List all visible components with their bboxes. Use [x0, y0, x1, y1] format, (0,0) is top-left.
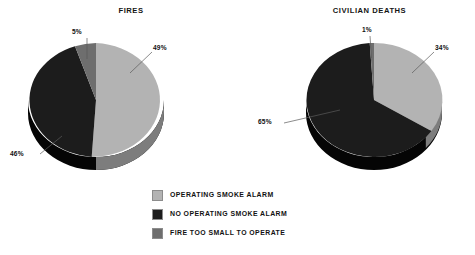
legend-label-no-operating: NO OPERATING SMOKE ALARM	[170, 211, 287, 218]
pie-graphic-fires: 49% 46% 5%	[0, 0, 240, 190]
legend-swatch-no-operating-icon	[152, 209, 163, 220]
pie-svg-civilian-deaths	[240, 0, 475, 190]
legend-item-operating-smoke-alarm: OPERATING SMOKE ALARM	[152, 186, 382, 205]
pie-value-label-too-small-fires: 5%	[72, 28, 82, 35]
pie-chart-civilian-deaths: CIVILIAN DEATHS 34% 65% 1%	[240, 0, 475, 190]
legend-label-operating: OPERATING SMOKE ALARM	[170, 192, 274, 199]
pie-value-label-no-operating-deaths: 65%	[258, 118, 272, 125]
pie-value-label-operating-deaths: 34%	[435, 44, 449, 51]
pie-chart-fires: FIRES 49% 46%	[0, 0, 240, 190]
chart-canvas: FIRES 49% 46%	[0, 0, 475, 255]
pie-value-label-operating-fires: 49%	[153, 44, 167, 51]
pie-svg-fires	[0, 0, 240, 190]
legend-label-too-small: FIRE TOO SMALL TO OPERATE	[170, 230, 285, 237]
legend-item-no-operating-smoke-alarm: NO OPERATING SMOKE ALARM	[152, 205, 382, 224]
legend-item-fire-too-small-to-operate: FIRE TOO SMALL TO OPERATE	[152, 224, 382, 243]
pie-value-label-no-operating-fires: 46%	[10, 150, 24, 157]
legend-swatch-operating-icon	[152, 190, 163, 201]
legend-swatch-too-small-icon	[152, 228, 163, 239]
chart-legend: OPERATING SMOKE ALARM NO OPERATING SMOKE…	[152, 186, 382, 243]
pie-graphic-civilian-deaths: 34% 65% 1%	[240, 0, 475, 190]
pie-value-label-too-small-deaths: 1%	[362, 26, 372, 33]
